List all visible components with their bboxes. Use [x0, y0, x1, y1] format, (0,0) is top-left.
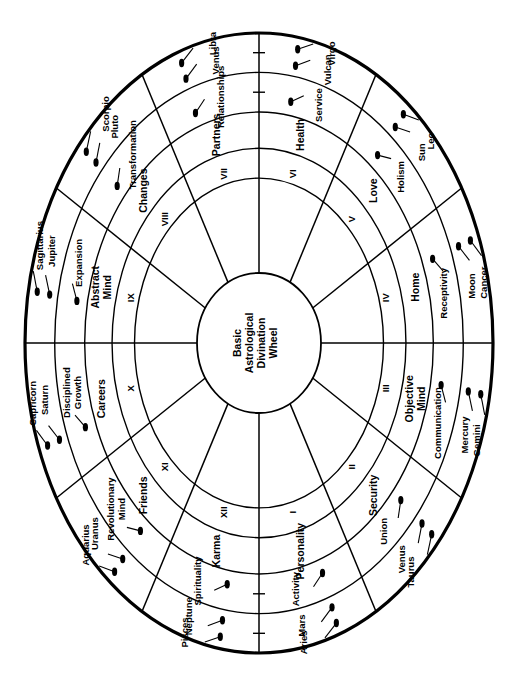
house-quality-IX: Expansion: [73, 239, 84, 287]
house-keyword-IX: AbstractMind: [89, 265, 113, 308]
house-keyword-IV: Home: [409, 272, 421, 301]
house-keyword-IV-text: Home: [409, 272, 421, 301]
house-quality-I-text: Activity: [290, 571, 301, 606]
house-quality-IX-text: Expansion: [73, 239, 84, 287]
house-sign-IX-text: Sagittarius: [34, 221, 45, 270]
house-numeral-VIII-text: VIII: [159, 212, 170, 226]
leader-line: [298, 44, 313, 49]
house-planet-marker-IX: [47, 290, 52, 298]
house-numeral-VII: VII: [218, 168, 229, 180]
house-quality-VI: Service: [313, 88, 324, 122]
house-planet-IV-text: Moon: [466, 273, 477, 299]
house-quality-X: DisciplinedGrowth: [61, 367, 83, 418]
leader-line: [418, 524, 422, 544]
house-keyword-II: Security: [367, 474, 379, 516]
house-keyword-XII: Karma: [210, 535, 222, 568]
center-title-line: Divination: [255, 318, 267, 369]
house-planet-X-text: Saturn: [39, 385, 50, 415]
leader-line: [468, 391, 472, 410]
leader-line: [186, 64, 197, 78]
house-numeral-I-text: I: [287, 511, 298, 514]
house-keyword-II-text: Security: [367, 474, 379, 516]
house-keyword-V: Love: [367, 178, 379, 203]
house-sign-VI: Virgo: [326, 41, 337, 65]
house-keyword-III: ObjectiveMind: [403, 375, 427, 422]
house-sign-IX: Sagittarius: [34, 221, 45, 270]
house-planet-IV: Moon: [466, 273, 477, 299]
house-sign-I: Aries: [298, 630, 309, 654]
house-keyword-IX-text: Abstract: [89, 265, 101, 308]
center-title-line: Astrological: [243, 313, 255, 374]
house-quality-IV-text: Receptivity: [438, 267, 449, 318]
leader-line: [195, 99, 204, 113]
house-quality-II: Union: [378, 518, 389, 545]
house-sign-VII: Libra: [207, 31, 218, 55]
house-quality-III: Communication: [432, 387, 443, 459]
house-keyword-XI-text: Friends: [137, 476, 149, 514]
house-keyword-VI-text: Health: [294, 119, 306, 151]
house-sign-VIII-text: Scorpio: [100, 96, 111, 132]
house-quality-VIII-text: Transformation: [127, 120, 138, 189]
leader-line: [96, 143, 100, 163]
house-planet-XI: Uranus: [89, 517, 100, 550]
house-quality-XI-text: Mind: [116, 498, 127, 520]
house-sign-IV: Cancer: [478, 266, 489, 299]
house-sign-II-text: Taurus: [405, 557, 416, 588]
house-numeral-XI-text: XI: [159, 462, 170, 471]
leader-line: [296, 60, 311, 65]
house-sign-XII-text: Pisces: [179, 617, 190, 647]
house-keyword-III-text: Objective: [403, 375, 415, 422]
house-sign-VII-text: Libra: [207, 31, 218, 55]
house-sign-III: Gemini: [471, 424, 482, 456]
house-numeral-II-text: II: [346, 464, 357, 469]
house-sign-V-text: Leo: [425, 132, 436, 149]
house-keyword-IX-text: Mind: [101, 275, 113, 300]
house-planet-III-text: Mercury: [459, 416, 470, 454]
house-sign-II: Taurus: [405, 557, 416, 588]
house-planet-IX: Jupiter: [46, 235, 57, 267]
leader-line: [208, 620, 223, 625]
house-numeral-XI: XI: [159, 462, 170, 471]
house-numeral-VI: VI: [287, 169, 298, 178]
leader-line: [395, 127, 410, 132]
house-numeral-I: I: [287, 511, 298, 514]
house-numeral-V-text: V: [346, 215, 357, 222]
house-sign-X-text: Capricorn: [27, 381, 38, 426]
house-keyword-X: Careers: [95, 379, 107, 418]
house-sign-III-text: Gemini: [471, 424, 482, 456]
house-sign-XI-text: Aquarius: [80, 524, 91, 565]
house-quality-V: Holism: [395, 161, 406, 193]
house-numeral-VI-text: VI: [287, 169, 298, 178]
house-sign-X: Capricorn: [27, 381, 38, 426]
center-title-line: Wheel: [267, 327, 279, 358]
leader-line: [108, 554, 123, 559]
house-planet-IX-text: Jupiter: [46, 235, 57, 267]
house-numeral-XII: XII: [218, 506, 229, 518]
house-quality-II-text: Union: [378, 518, 389, 545]
leader-line: [75, 415, 85, 427]
leader-line: [481, 394, 485, 415]
house-planet-XI-text: Uranus: [89, 517, 100, 550]
house-quality-IV: Receptivity: [438, 267, 449, 318]
house-quality-XI-text: Revolutionary: [105, 477, 116, 541]
house-sign-V: Leo: [425, 132, 436, 149]
house-quality-X-text: Growth: [72, 376, 83, 409]
house-sign-XI: Aquarius: [80, 524, 91, 565]
house-keyword-X-text: Careers: [95, 379, 107, 418]
wheel-svg: IPersonalityActivityMarsAriesIISecurityU…: [0, 0, 518, 681]
house-keyword-III-text: Mind: [415, 387, 427, 412]
house-keyword-VI: Health: [294, 119, 306, 151]
leader-line: [49, 426, 60, 440]
house-keyword-XI: Friends: [137, 476, 149, 514]
house-numeral-VII-text: VII: [218, 168, 229, 180]
leader-line: [214, 584, 227, 590]
house-quality-I: Activity: [290, 571, 301, 606]
house-quality-XI: RevolutionaryMind: [105, 477, 127, 541]
house-keyword-VIII-text: Changes: [137, 168, 149, 213]
house-quality-marker-VI: [288, 98, 293, 106]
leader-line: [291, 96, 304, 102]
house-numeral-X: X: [125, 385, 136, 392]
leader-line: [46, 275, 50, 294]
house-sign-IV-text: Cancer: [478, 266, 489, 299]
house-numeral-IV: IV: [380, 293, 391, 303]
